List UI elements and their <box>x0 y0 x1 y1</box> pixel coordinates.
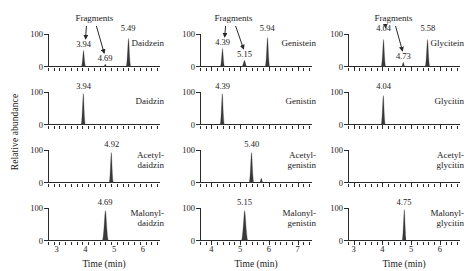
x-axis-tick <box>275 184 276 187</box>
x-axis-tick <box>140 184 141 187</box>
x-axis-tick <box>128 68 129 71</box>
x-axis-tick <box>423 68 424 71</box>
x-axis-tick <box>211 67 212 71</box>
x-axis-tick <box>405 126 406 129</box>
x-axis-tick <box>229 126 230 129</box>
y-axis-line <box>348 34 349 67</box>
x-axis-tick <box>371 184 372 187</box>
compound-name-line: Daidzin <box>136 96 165 106</box>
x-axis-tick <box>280 126 281 129</box>
peak-retention-time-label: 5.15 <box>237 50 252 59</box>
x-axis-tick <box>411 183 412 187</box>
y-axis-tick-label: 100 <box>182 30 195 39</box>
chromatogram-figure: Relative abundance 10003.944.695.49Daidz… <box>0 0 469 271</box>
x-axis-title: Time (min) <box>200 259 312 269</box>
x-axis-tick <box>246 126 247 129</box>
y-axis-tick-label: 100 <box>182 204 195 213</box>
x-axis-tick <box>365 184 366 187</box>
compound-name-line: Genistin <box>286 96 317 106</box>
peak-retention-time-label: 4.73 <box>396 52 411 61</box>
x-axis-tick <box>388 126 389 129</box>
x-axis-tick <box>206 184 207 187</box>
x-axis-tick <box>348 184 349 187</box>
x-axis-tick-labels: 4567 <box>200 245 312 256</box>
y-axis-tick-label: 0 <box>339 63 343 72</box>
x-axis-tick <box>105 184 106 187</box>
x-axis-tick-label: 4 <box>209 245 213 254</box>
y-axis-tick-label: 100 <box>30 88 43 97</box>
x-axis-tick <box>257 184 258 187</box>
x-axis-tick <box>123 184 124 187</box>
compound-name-line: Malonyl- <box>131 208 165 218</box>
y-axis-tick <box>344 34 348 35</box>
x-axis-tick <box>146 184 147 187</box>
x-axis-tick-label: 3 <box>54 245 58 254</box>
x-axis-tick <box>140 126 141 129</box>
peak-retention-time-label: 3.94 <box>76 82 91 91</box>
x-axis-tick <box>240 67 241 71</box>
x-axis-tick <box>417 184 418 187</box>
x-axis-tick <box>234 184 235 187</box>
y-axis-tick-label: 100 <box>330 204 343 213</box>
x-axis-tick <box>365 68 366 71</box>
x-axis-ticks <box>200 67 312 71</box>
x-axis-tick <box>388 68 389 71</box>
x-axis-tick <box>217 126 218 129</box>
peak-retention-time-label: 4.92 <box>104 140 119 149</box>
x-axis-tick <box>303 126 304 129</box>
x-axis-tick <box>400 184 401 187</box>
x-axis-tick <box>246 184 247 187</box>
chromatogram-panel: 10003.944.695.49DaidzeinFragments <box>18 14 168 72</box>
x-axis-tick <box>82 126 83 129</box>
peak-retention-time-label: 4.04 <box>376 24 391 33</box>
x-axis-tick <box>275 68 276 71</box>
compound-name-line: glycitin <box>431 218 465 228</box>
x-axis-tick <box>292 126 293 129</box>
y-axis-tick-label: 100 <box>330 146 343 155</box>
compound-name-line: Daidzein <box>132 38 164 48</box>
x-axis-ticks <box>200 125 312 129</box>
chromatogram-panel: 10004.92Acetyl-daidzin <box>18 130 168 188</box>
x-axis-tick <box>359 126 360 129</box>
x-axis-tick <box>280 68 281 71</box>
x-axis-tick <box>59 184 60 187</box>
x-axis-ticks <box>200 183 312 187</box>
compound-name-line: Genistein <box>282 38 317 48</box>
y-axis-tick <box>44 34 48 35</box>
x-axis-tick <box>128 184 129 187</box>
x-axis-tick <box>206 68 207 71</box>
x-axis-tick <box>423 126 424 129</box>
x-axis-tick <box>240 125 241 129</box>
y-axis-tick <box>196 208 200 209</box>
y-axis-line <box>200 208 201 241</box>
x-axis-tick <box>54 184 55 187</box>
y-axis-line <box>48 150 49 183</box>
x-axis-tick-label: 6 <box>141 245 145 254</box>
x-axis-tick-label: 4 <box>83 245 87 254</box>
x-axis-tick <box>252 126 253 129</box>
x-axis-tick <box>157 184 158 187</box>
compound-name: Genistein <box>282 38 317 48</box>
x-axis-tick <box>303 184 304 187</box>
x-axis-tick <box>146 126 147 129</box>
compound-name: Malonyl-daidzin <box>131 208 165 228</box>
y-axis-tick <box>44 208 48 209</box>
compound-name-line: glycitin <box>437 160 465 170</box>
y-axis-line <box>48 208 49 241</box>
x-axis-tick <box>134 184 135 187</box>
x-axis-ticks <box>48 67 160 71</box>
x-axis-tick <box>48 68 49 71</box>
peak-retention-time-label: 3.94 <box>76 40 91 49</box>
x-axis-tick <box>269 183 270 187</box>
x-axis-tick <box>359 184 360 187</box>
x-axis-tick <box>217 184 218 187</box>
y-axis-line <box>48 92 49 125</box>
x-axis-tick <box>394 184 395 187</box>
y-axis-line <box>200 92 201 125</box>
x-axis-tick <box>94 126 95 129</box>
chromatogram-peak <box>241 210 248 241</box>
x-axis-tick-label: 3 <box>352 245 356 254</box>
chromatogram-peak <box>126 38 131 67</box>
x-axis-tick <box>59 126 60 129</box>
x-axis-tick <box>211 183 212 187</box>
